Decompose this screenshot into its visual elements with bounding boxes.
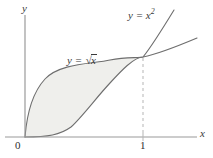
shaded-region — [25, 57, 143, 137]
x-axis-label: x — [200, 128, 205, 139]
math-figure: y = x2 y = √x y x 0 1 — [0, 0, 213, 158]
radicand: x — [91, 54, 97, 66]
radical-group: √x — [85, 54, 97, 66]
curve-label-square-root: y = √x — [67, 54, 97, 66]
x-tick-label-1: 1 — [140, 140, 146, 151]
origin-label: 0 — [15, 140, 21, 151]
curve-label-sqrt-equals: = — [75, 54, 82, 66]
plot-canvas — [0, 0, 213, 158]
curve-label-parabola-equals: = — [136, 9, 143, 21]
y-axis-label: y — [22, 3, 27, 14]
curve-label-parabola: y = x2 — [128, 8, 155, 21]
curve-label-parabola-exponent: 2 — [151, 7, 155, 16]
